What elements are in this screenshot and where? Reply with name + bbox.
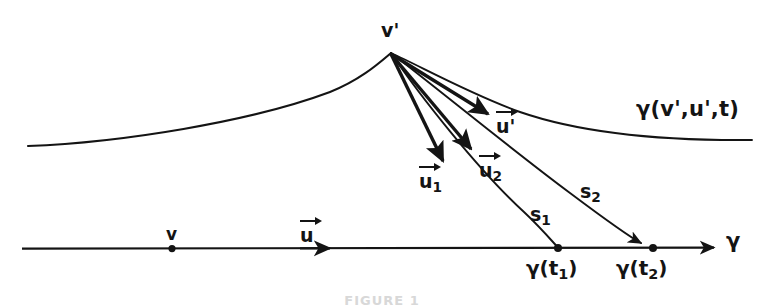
baseline-axis-line (22, 248, 714, 249)
segment-s1-base: s (530, 203, 541, 225)
foot-t2-label: γ(t2) (616, 258, 667, 278)
foot-t2-base: γ(t (616, 256, 648, 280)
over-arrow-icon (419, 163, 441, 170)
vector-uprime-label: u' (496, 117, 515, 136)
foot-t1-base: γ(t (526, 256, 558, 280)
vector-u1-subscript: 1 (433, 179, 443, 195)
point-v-dot (168, 245, 175, 252)
baseline-vector-label: u (300, 226, 314, 245)
vector-u2-label: u2 (479, 161, 502, 180)
segment-s1-subscript: 1 (541, 212, 551, 228)
over-arrow-icon (496, 108, 518, 115)
foot-t2-close: ) (658, 256, 667, 280)
over-arrow-icon (300, 217, 322, 224)
upper-curve-label: γ(v',u',t) (636, 99, 739, 120)
foot-t2-dot (649, 244, 657, 252)
foot-t1-close: ) (568, 256, 577, 280)
foot-t1-subscript: 1 (558, 266, 568, 282)
segment-s2-base: s (580, 180, 591, 202)
segment-s2-curve (391, 53, 641, 243)
over-arrow-icon (479, 152, 501, 159)
vector-u1-label: u1 (419, 172, 442, 191)
baseline-axis-label: γ (726, 231, 740, 252)
foot-t2-subscript: 2 (648, 266, 658, 282)
foot-t1-dot (554, 244, 562, 252)
segment-s2-label: s2 (580, 182, 601, 201)
vector-u2-subscript: 2 (493, 168, 503, 184)
segment-s1-label: s1 (530, 205, 551, 224)
geodesic-figure: v' v γ u γ(v',u',t) u' u1 u2 s1 s2 γ(t1)… (0, 0, 764, 305)
upper-curve-left-branch (28, 53, 391, 146)
baseline-point-label: v (166, 226, 177, 243)
apex-point-label: v' (381, 21, 399, 40)
foot-t1-label: γ(t1) (526, 258, 577, 278)
segment-s2-subscript: 2 (591, 189, 601, 205)
figure-caption: FIGURE 1 (0, 293, 764, 305)
